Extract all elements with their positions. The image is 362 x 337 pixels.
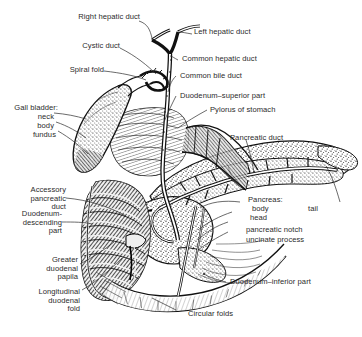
label-longitudinal-duodenal-fold: Longitudinal duodenal fold bbox=[0, 288, 80, 314]
label-pancreas-tail: tail bbox=[308, 205, 318, 214]
label-circular-folds: Circular folds bbox=[188, 310, 233, 319]
label-duodenum-descending-part: Duodenum- descending part bbox=[0, 210, 62, 236]
label-accessory-pancreatic-duct: Accessory pancreatic duct bbox=[0, 186, 66, 212]
label-left-hepatic-duct: Left hepatic duct bbox=[194, 28, 251, 37]
label-uncinate-process: uncinate process bbox=[246, 236, 304, 245]
anatomical-figure: Right hepatic duct Left hepatic duct Cys… bbox=[0, 0, 362, 337]
label-pancreatic-notch: pancreatic notch bbox=[246, 226, 303, 235]
label-gall-bladder-fundus: fundus bbox=[4, 131, 56, 140]
label-right-hepatic-duct: Right hepatic duct bbox=[52, 13, 140, 22]
label-spiral-fold: Spiral fold bbox=[32, 66, 104, 75]
label-cystic-duct: Cystic duct bbox=[42, 42, 120, 51]
label-duodenum-inferior-part: Duodenum–inferior part bbox=[230, 278, 311, 287]
label-common-hepatic-duct: Common hepatic duct bbox=[182, 55, 257, 64]
label-pancreas-head: head bbox=[250, 214, 267, 223]
label-greater-duodenal-papila: Greater duodenal papila bbox=[0, 256, 78, 282]
label-duodenum-superior-part: Duodenum–superior part bbox=[180, 92, 265, 101]
label-common-bile-duct: Common bile duct bbox=[180, 72, 242, 81]
label-pancreatic-duct: Pancreatic duct bbox=[230, 134, 283, 143]
label-pylorus-of-stomach: Pylorus of stomach bbox=[210, 106, 275, 115]
